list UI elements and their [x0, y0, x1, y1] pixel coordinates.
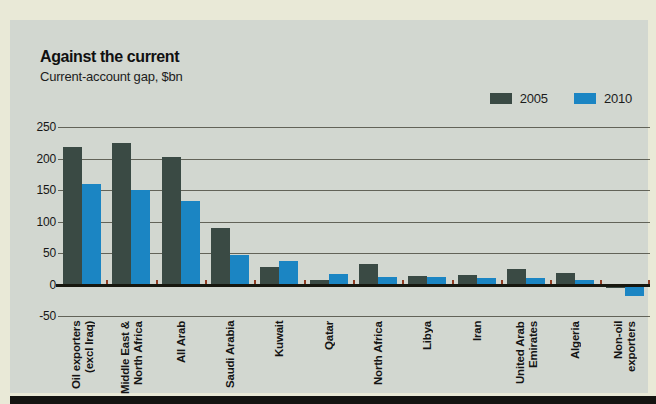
x-axis-label: Kuwait: [273, 321, 286, 404]
bar-2010: [181, 201, 200, 285]
x-axis-label-cell: Algeria: [551, 321, 600, 404]
x-axis-label: Iran: [471, 321, 484, 404]
y-axis-label: -50: [20, 309, 56, 323]
bar-2005: [63, 147, 82, 284]
x-axis-label-cell: Qatar: [305, 321, 354, 404]
x-axis-label-cell: Kuwait: [255, 321, 304, 404]
legend-item-2010: 2010: [574, 91, 632, 106]
x-axis-label: Qatar: [323, 321, 336, 404]
x-axis-label-cell: Iran: [453, 321, 502, 404]
x-axis-line: [56, 284, 650, 287]
bar-2010: [230, 255, 249, 285]
x-axis-label: Algeria: [569, 321, 582, 404]
bar-2005: [211, 228, 230, 285]
x-axis-label: North Africa: [372, 321, 385, 404]
chart-panel: Against the current Current-account gap,…: [10, 20, 648, 393]
bar-2005: [260, 267, 279, 285]
x-axis-label-cell: Middle East & North Africa: [107, 321, 156, 404]
gridline-250: [58, 127, 650, 128]
x-axis-label: Middle East & North Africa: [119, 321, 145, 404]
bar-2010: [279, 261, 298, 285]
bar-2010: [131, 190, 150, 285]
x-axis-label: Oil exporters (excl Iraq): [70, 321, 96, 404]
y-axis-label: 100: [20, 215, 56, 229]
x-axis-labels: Oil exporters (excl Iraq)Middle East & N…: [58, 321, 650, 404]
bar-2005: [359, 264, 378, 284]
bar-2010: [82, 184, 101, 285]
legend-item-2005: 2005: [490, 91, 548, 106]
legend: 20052010: [490, 91, 632, 106]
bar-2005: [162, 157, 181, 284]
y-axis-label: 150: [20, 183, 56, 197]
x-axis-label-cell: United Arab Emirates: [502, 321, 551, 404]
x-axis-label: Non-oil exporters: [612, 321, 638, 404]
chart-figure: Against the current Current-account gap,…: [0, 0, 656, 404]
x-axis-label: United Arab Emirates: [514, 321, 540, 404]
bar-2005: [507, 269, 526, 285]
x-axis-label-cell: North Africa: [354, 321, 403, 404]
plot-area: [58, 127, 650, 316]
bar-2010: [625, 287, 644, 296]
chart-title: Against the current: [40, 48, 179, 66]
x-axis-label-cell: Libya: [403, 321, 452, 404]
legend-label: 2005: [520, 91, 548, 106]
y-axis-label: 250: [20, 120, 56, 134]
bar-2005: [606, 287, 625, 288]
legend-label: 2010: [604, 91, 632, 106]
chart-subtitle: Current-account gap, $bn: [40, 69, 183, 84]
x-axis-label-cell: Oil exporters (excl Iraq): [58, 321, 107, 404]
x-axis-label: Libya: [421, 321, 434, 404]
bar-2005: [112, 143, 131, 284]
y-axis-label: 200: [20, 152, 56, 166]
x-axis-label: All Arab: [175, 321, 188, 404]
y-axis-label: 50: [20, 246, 56, 260]
gridline-200: [58, 159, 650, 160]
x-axis-label-cell: Non-oil exporters: [601, 321, 650, 404]
bottom-rule: [10, 396, 656, 404]
legend-swatch-2005: [490, 93, 512, 104]
y-axis-label: 0: [20, 278, 56, 292]
x-axis-label: Saudi Arabia: [224, 321, 237, 404]
x-axis-label-cell: Saudi Arabia: [206, 321, 255, 404]
legend-swatch-2010: [574, 93, 596, 104]
x-axis-label-cell: All Arab: [157, 321, 206, 404]
gridline--50: [58, 316, 650, 317]
